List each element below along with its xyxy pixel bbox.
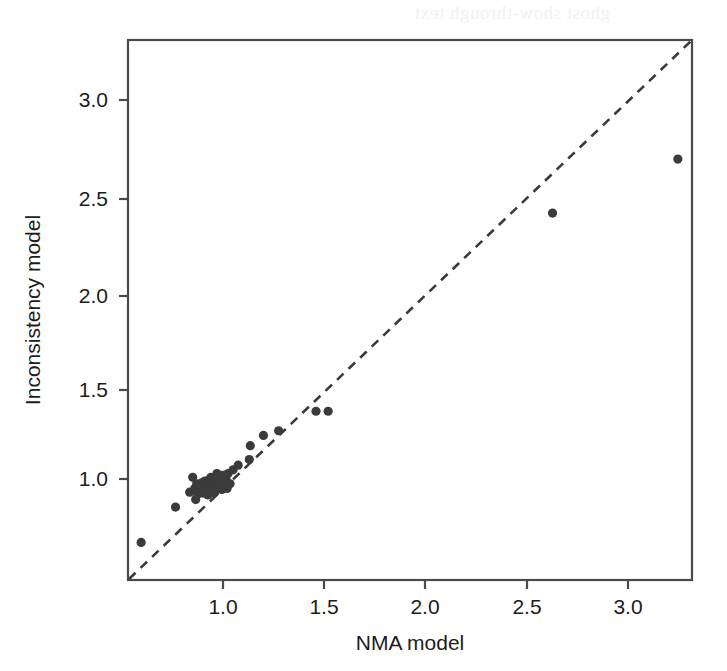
data-point bbox=[245, 455, 254, 464]
y-tick-label: 1.5 bbox=[79, 378, 108, 401]
x-tick-label: 1.0 bbox=[208, 595, 237, 618]
data-point bbox=[225, 479, 234, 488]
identity-reference-line bbox=[129, 41, 691, 579]
data-points-layer bbox=[137, 154, 683, 547]
y-tick-label: 3.0 bbox=[79, 88, 108, 111]
data-point bbox=[246, 441, 255, 450]
data-point bbox=[137, 538, 146, 547]
x-tick-label: 3.0 bbox=[613, 595, 642, 618]
data-point bbox=[548, 208, 557, 217]
data-point bbox=[311, 407, 320, 416]
x-tick-label: 2.5 bbox=[512, 595, 541, 618]
y-axis-tick-labels: 1.0 1.5 2.0 2.5 3.0 bbox=[79, 88, 108, 490]
x-tick-label: 1.5 bbox=[309, 595, 338, 618]
y-axis-title: Inconsistency model bbox=[21, 215, 44, 405]
x-tick-label: 2.0 bbox=[410, 595, 439, 618]
data-point bbox=[274, 426, 283, 435]
data-point bbox=[171, 502, 180, 511]
y-tick-label: 2.5 bbox=[79, 187, 108, 210]
data-point bbox=[259, 431, 268, 440]
x-axis-ticks bbox=[223, 580, 628, 589]
y-tick-label: 2.0 bbox=[79, 284, 108, 307]
data-point bbox=[673, 154, 682, 163]
x-axis-tick-labels: 1.0 1.5 2.0 2.5 3.0 bbox=[208, 595, 642, 618]
x-axis-title: NMA model bbox=[356, 631, 465, 654]
data-point bbox=[324, 407, 333, 416]
plot-canvas: 1.0 1.5 2.0 2.5 3.0 1.0 1.5 2.0 2.5 3.0 … bbox=[0, 0, 727, 671]
scatter-plot-figure: 1.0 1.5 2.0 2.5 3.0 1.0 1.5 2.0 2.5 3.0 … bbox=[0, 0, 727, 671]
y-tick-label: 1.0 bbox=[79, 467, 108, 490]
data-point bbox=[234, 461, 243, 470]
y-axis-ticks bbox=[119, 100, 128, 479]
